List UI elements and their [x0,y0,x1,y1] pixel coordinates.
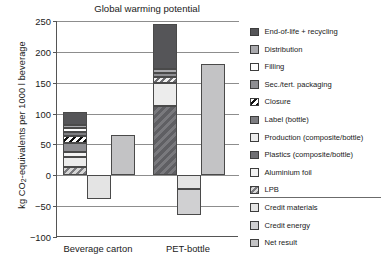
legend-item-plastics-composite-bottle-[interactable]: Plastics (composite/bottle) [250,146,383,164]
y-tick-label-50: 50 [41,139,51,150]
x-axis-label-pet-bottle: PET-bottle [128,243,248,254]
y-tick-label-250: 250 [35,16,51,27]
y-tick-label-0: 0 [46,170,51,181]
y-tick--100 [53,237,57,238]
chart-legend: End-of-life + recyclingDistributionFilli… [250,23,383,252]
legend-item-production-composite-bottle-[interactable]: Production (composite/bottle) [250,129,383,147]
bar-segment-sec-tert-packaging[interactable] [153,73,177,76]
bar-segment-production-composite-bottle-[interactable] [153,83,177,106]
y-tick-label-100: 100 [35,108,51,119]
bar-segment-filling[interactable] [63,128,87,132]
legend-item-label: End-of-life + recycling [265,28,338,36]
bar-stack-pet-bottle[interactable] [153,21,177,237]
bar-segment-sec-tert-packaging[interactable] [63,143,87,152]
y-axis-title-prefix: kg CO [17,182,27,209]
legend-item-label: Aluminium foil [265,169,312,177]
legend-swatch-icon [250,116,259,125]
legend-item-sec-tert-packaging[interactable]: Sec./tert. packaging [250,76,383,94]
y-tick--50 [53,206,57,207]
bar-net-result-pet-bottle[interactable] [201,21,225,237]
legend-swatch-icon [250,45,259,54]
legend-item-label: Closure [265,98,291,106]
global-warming-potential-chart: Global warming potential kg CO2-equivale… [0,0,383,274]
legend-swatch-icon [250,98,259,107]
legend-item-end-of-life-recycling[interactable]: End-of-life + recycling [250,23,383,41]
bar-segment-distribution[interactable] [153,69,177,73]
bar-segment-lpb[interactable] [63,167,87,176]
legend-swatch-icon [250,133,259,142]
legend-swatch-icon [250,221,259,230]
y-tick-label-200: 200 [35,46,51,57]
bar-segment-end-of-life-recycling[interactable] [63,112,87,125]
bar-segment-plastics-composite-bottle-[interactable] [153,106,177,176]
legend-swatch-icon [250,28,259,37]
legend-item-label: Sec./tert. packaging [265,81,332,89]
y-tick-label--50: −50 [35,201,51,212]
legend-item-label: LPB [265,186,279,194]
bar-segment-net-result[interactable] [201,64,225,175]
y-tick-200 [53,52,57,53]
legend-item-label: Net result [265,239,298,247]
legend-item-net-result[interactable]: Net result [250,234,383,252]
bar-stack-beverage-carton[interactable] [63,21,87,237]
legend-divider [250,197,381,198]
y-axis-title-suffix: -equivalents per 1000 l beverage [17,41,27,178]
legend-item-label-bottle-[interactable]: Label (bottle) [250,111,383,129]
y-tick-250 [53,21,57,22]
bar-segment-aluminium-foil[interactable] [63,152,87,157]
y-axis-title: kg CO2-equivalents per 1000 l beverage [17,18,27,233]
bar-segment-end-of-life-recycling[interactable] [153,24,177,69]
chart-title: Global warming potential [56,3,238,14]
bar-credits-beverage-carton[interactable] [87,21,111,237]
bar-segment-label-bottle-[interactable] [63,132,87,136]
bar-segment-closure[interactable] [63,136,87,143]
legend-item-label: Credit energy [265,222,311,230]
legend-item-distribution[interactable]: Distribution [250,41,383,59]
bar-credits-pet-bottle[interactable] [177,21,201,237]
legend-item-credit-materials[interactable]: Credit materials [250,199,383,217]
y-tick-150 [53,83,57,84]
y-tick-0 [53,175,57,176]
legend-item-label: Production (composite/bottle) [265,134,364,142]
y-tick-label--100: −100 [30,232,51,243]
legend-swatch-icon [250,80,259,89]
legend-item-label: Plastics (composite/bottle) [265,151,354,159]
bar-segment-credit-energy[interactable] [177,189,201,216]
legend-swatch-icon [250,168,259,177]
legend-swatch-icon [250,203,259,212]
bar-segment-credit-materials[interactable] [87,175,111,198]
legend-swatch-icon [250,186,259,195]
bar-segment-production-composite-bottle-[interactable] [63,157,87,167]
bar-segment-net-result[interactable] [111,135,135,176]
y-tick-100 [53,114,57,115]
y-tick-50 [53,144,57,145]
y-tick-label-150: 150 [35,77,51,88]
legend-item-label: Distribution [265,46,303,54]
bar-segment-credit-materials[interactable] [177,175,201,189]
legend-item-label: Credit materials [265,204,318,212]
bar-net-result-beverage-carton[interactable] [111,21,135,237]
plot-area: 250200150100500−50−100 [56,21,238,237]
legend-item-filling[interactable]: Filling [250,58,383,76]
legend-item-aluminium-foil[interactable]: Aluminium foil [250,164,383,182]
legend-item-label: Filling [265,63,285,71]
bar-segment-distribution[interactable] [63,125,87,129]
legend-item-credit-energy[interactable]: Credit energy [250,217,383,235]
y-axis-title-subscript: 2 [20,178,27,182]
legend-item-closure[interactable]: Closure [250,93,383,111]
legend-swatch-icon [250,239,259,248]
legend-swatch-icon [250,151,259,160]
bar-segment-closure[interactable] [153,77,177,83]
legend-item-label: Label (bottle) [265,116,309,124]
legend-swatch-icon [250,63,259,72]
